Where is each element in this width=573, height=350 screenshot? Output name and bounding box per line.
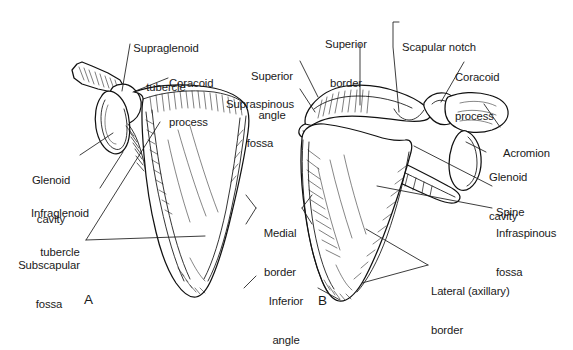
label-coracoid-process-b-line1: Coracoid (455, 71, 525, 84)
label-superior-border-line1: Superior (316, 38, 376, 51)
label-supraspinous-fossa-line1: Supraspinous (221, 98, 299, 111)
panel-letter-a: A (84, 292, 93, 307)
label-inferior-angle-line2: angle (258, 334, 314, 347)
label-infraspinous-fossa-line1: Infraspinous (496, 227, 572, 240)
leader-supraspinous-fossa (300, 89, 315, 112)
label-medial-border-line1: Medial (258, 227, 302, 240)
label-inferior-angle: Inferior angle (258, 269, 314, 350)
label-subscapular-fossa-line1: Subscapular (12, 259, 86, 272)
label-lateral-axillary-border-line2: border (431, 324, 541, 337)
label-lateral-axillary-border-line1: Lateral (axillary) (431, 285, 541, 298)
panel-letter-b: B (318, 293, 327, 308)
label-supraspinous-fossa-line2: fossa (221, 137, 299, 150)
label-supraspinous-fossa: Supraspinous fossa (221, 72, 299, 176)
leader-medial-border-right (246, 208, 256, 224)
label-infraglenoid-tubercle-line1: Infraglenoid (20, 207, 100, 220)
label-lateral-axillary-border: Lateral (axillary) border (431, 259, 541, 350)
leader-inferior-angle (244, 276, 256, 288)
label-subscapular-fossa-line2: fossa (12, 298, 86, 311)
leader-lateral-border-lower (362, 265, 428, 283)
label-subscapular-fossa: Subscapular fossa (12, 233, 86, 337)
label-superior-border: Superior border (316, 12, 376, 116)
leader-infraglenoid-tubercle (100, 152, 123, 188)
label-superior-border-line2: border (316, 77, 376, 90)
leader-medial-border-left (246, 195, 256, 208)
label-inferior-angle-line1: Inferior (258, 295, 314, 308)
